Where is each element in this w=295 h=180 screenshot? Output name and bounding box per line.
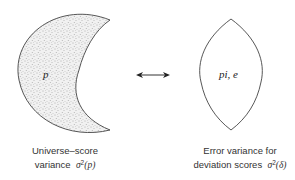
caption-line1: Error variance for xyxy=(190,145,290,157)
double-arrow-icon xyxy=(136,72,170,78)
crescent-inner-label: p xyxy=(43,68,49,80)
universe-score-caption: Universe–score variance σ2(p) xyxy=(25,145,105,171)
caption-line1: Universe–score xyxy=(25,145,105,157)
universe-score-crescent xyxy=(18,14,110,132)
caption-line2: variance σ2(p) xyxy=(25,157,105,171)
error-variance-caption: Error variance for deviation scores σ2(δ… xyxy=(190,145,290,171)
caption-line2: deviation scores σ2(δ) xyxy=(190,157,290,171)
lens-inner-label: pi, e xyxy=(219,68,238,80)
